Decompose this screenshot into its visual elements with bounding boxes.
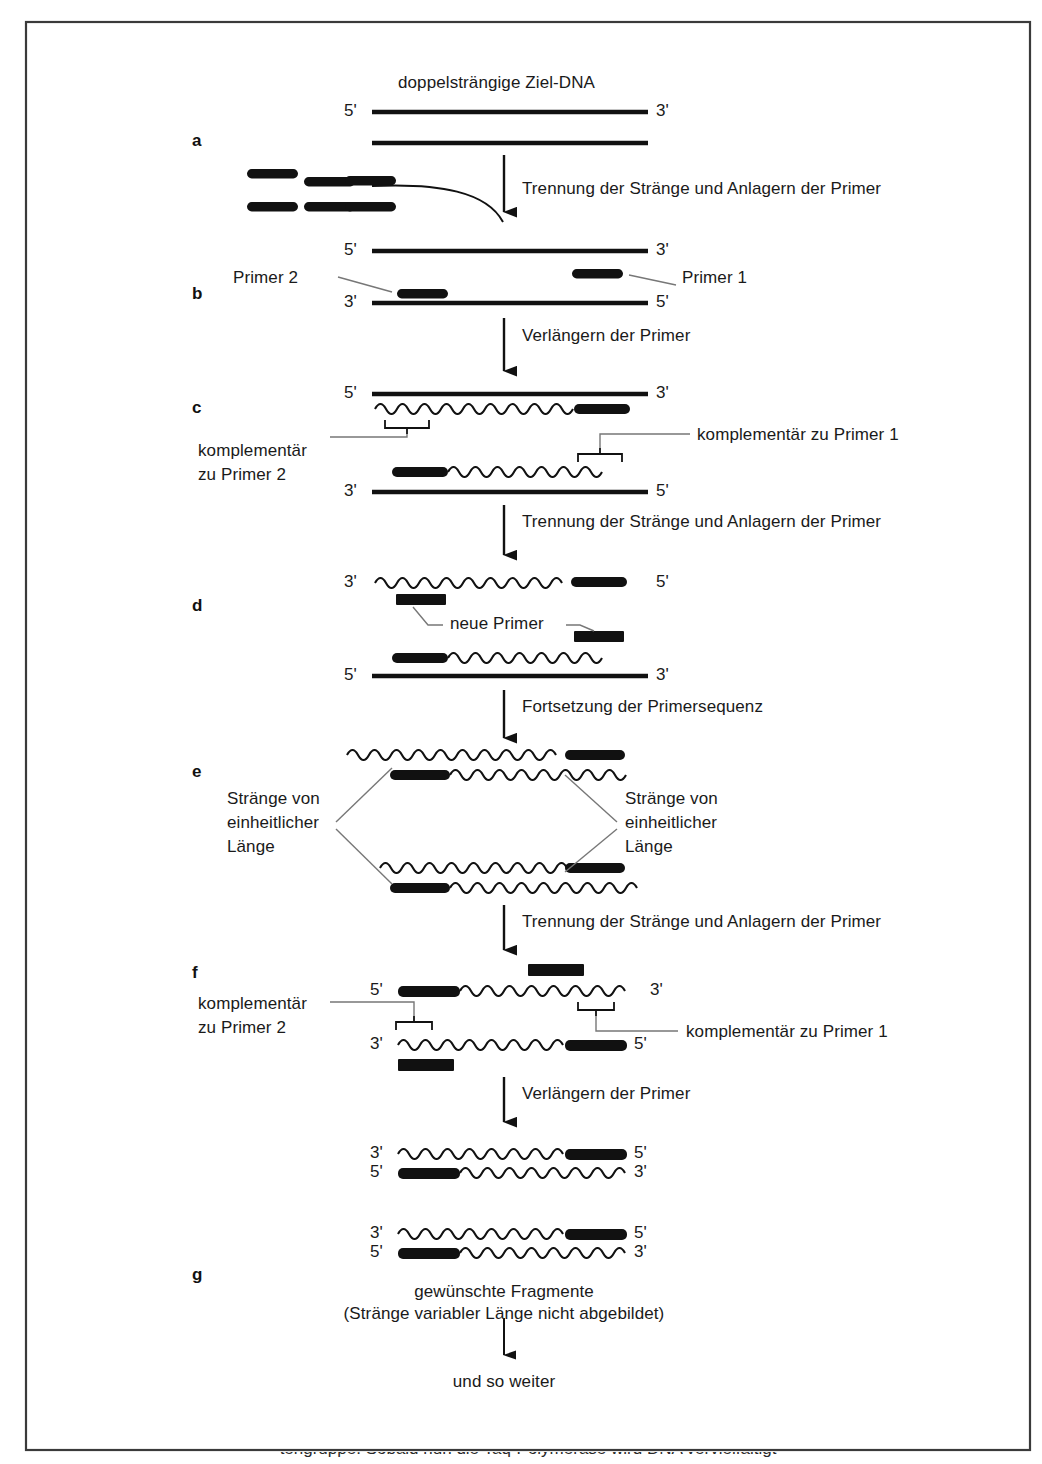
prime-g2-top-left: 3' [370,1223,383,1243]
leader-uniform-left-bottom [336,829,392,884]
label-uniform-right-line2: einheitlicher [625,812,717,834]
bracket-compl-primer2-f [396,1016,432,1030]
bracket-compl-primer1-c [578,448,622,462]
free-primer-pool [247,169,396,212]
label-desired-fragments-line1: gewünschte Fragmente [304,1281,704,1303]
leader-new-primer-upper-d [413,607,443,625]
prime-c-top-left: 5' [344,383,357,403]
primer-2-blob-d [392,653,448,663]
prime-c-top-right: 3' [656,383,669,403]
primer-1-blob-c [574,404,630,414]
prime-b-bottom-left: 3' [344,292,357,312]
label-compl-primer-2-f-line2: zu Primer 2 [198,1017,286,1039]
panel-letter-b: b [192,284,202,304]
diagram-svg [0,0,1042,1464]
panel-letter-e: e [192,762,201,782]
free-primer-blob-f-bottom [398,1059,454,1071]
step-label-e-to-f: Trennung der Stränge und Anlagern der Pr… [522,911,881,933]
free-primer-blob-f-top [528,964,584,976]
bracket-compl-primer2-c [385,420,429,434]
step-label-c-to-d: Trennung der Stränge und Anlagern der Pr… [522,511,881,533]
step-label-b-to-c: Verlängern der Primer [522,325,690,347]
panel-letter-a: a [192,131,201,151]
primer-1-blob-g1 [565,1149,627,1160]
prime-d-upper-right: 5' [656,572,669,592]
strand-f-bottom [398,1040,563,1050]
prime-d-lower-left: 5' [344,665,357,685]
prime-g2-bottom-left: 5' [370,1242,383,1262]
panel-letter-d: d [192,596,202,616]
leader-uniform-left-top [336,768,392,822]
clipped-caption-strip: tengruppe. Sobald nun die Taq-Polymerase… [26,1452,1030,1464]
strand-e-l1 [380,863,567,873]
leader-compl-primer1-c [600,434,690,448]
prime-a-top-left: 5' [344,101,357,121]
panel-letter-f: f [192,963,198,983]
prime-c-bottom-left: 3' [344,481,357,501]
primer-2-blob-e-lower [390,883,450,893]
prime-a-top-right: 3' [656,101,669,121]
primer-2-blob-g2 [398,1248,460,1259]
label-compl-primer-1-c: komplementär zu Primer 1 [697,424,899,446]
strand-e-u2 [450,770,626,780]
primer-2-blob-b [397,289,448,299]
new-primer-blob-lower-d [574,631,624,642]
strand-d-lower-new [448,653,602,663]
primer-2-blob-g1 [398,1168,460,1179]
primer-1-blob-g2 [565,1229,627,1240]
prime-b-bottom-right: 5' [656,292,669,312]
step-label-d-to-e: Fortsetzung der Primersequenz [522,696,763,718]
primer-2-blob-f-top [398,986,460,997]
primer-1-blob-f-bottom [565,1040,627,1051]
prime-g1-top-left: 3' [370,1143,383,1163]
leader-uniform-right-top [565,775,617,822]
label-compl-primer-2-c-line2: zu Primer 2 [198,464,286,486]
step-label-a-to-b: Trennung der Stränge und Anlagern der Pr… [522,178,881,200]
prime-g2-top-right: 5' [634,1223,647,1243]
figure-canvas: a b c d e f g doppelsträngige Ziel-DNA T… [0,0,1042,1464]
figure-title: doppelsträngige Ziel-DNA [398,72,595,94]
label-uniform-right-line3: Länge [625,836,673,858]
prime-g2-bottom-right: 3' [634,1242,647,1262]
bracket-compl-primer1-f [578,1002,614,1016]
new-primer-blob-upper-d [396,594,446,605]
prime-b-top-left: 5' [344,240,357,260]
leader-compl-primer2-c [330,434,407,437]
prime-b-top-right: 3' [656,240,669,260]
label-compl-primer-2-c-line1: komplementär [198,440,307,462]
leader-compl-primer1-f [596,1016,678,1031]
strand-g2-top [398,1229,563,1239]
label-compl-primer-1-f: komplementär zu Primer 1 [686,1021,888,1043]
step-label-f-to-g: Verlängern der Primer [522,1083,690,1105]
label-desired-fragments-line2: (Stränge variabler Länge nicht abgebilde… [264,1303,744,1325]
label-uniform-left-line3: Länge [227,836,275,858]
label-new-primers: neue Primer [450,613,544,635]
prime-g1-bottom-right: 3' [634,1162,647,1182]
label-uniform-left-line2: einheitlicher [227,812,319,834]
prime-d-upper-left: 3' [344,572,357,592]
panel-letter-c: c [192,398,201,418]
strand-f-top [460,986,625,996]
clipped-caption-text: tengruppe. Sobald nun die Taq-Polymerase… [26,1452,1030,1459]
prime-g1-top-right: 5' [634,1143,647,1163]
prime-f-bottom-left: 3' [370,1034,383,1054]
prime-f-top-left: 5' [370,980,383,1000]
prime-f-bottom-right: 5' [634,1034,647,1054]
strand-g1-top [398,1149,563,1159]
primer-1-blob-b [572,269,623,279]
primer-1-blob-e-upper [565,750,625,760]
label-compl-primer-2-f-line1: komplementär [198,993,307,1015]
strand-c-top-new [375,404,573,414]
prime-d-lower-right: 3' [656,665,669,685]
strand-e-u1 [347,750,556,760]
leader-compl-primer2-f [330,1002,414,1016]
leader-new-primer-lower-d [566,625,594,631]
label-primer-1: Primer 1 [682,267,747,289]
strand-g1-bottom [460,1168,625,1178]
label-uniform-left-line1: Stränge von [227,788,320,810]
leader-primer2-b [338,277,392,292]
primer-2-blob-c [392,467,448,477]
strand-e-l2 [450,883,637,893]
leader-primer1-b [629,275,676,285]
prime-f-top-right: 3' [650,980,663,1000]
